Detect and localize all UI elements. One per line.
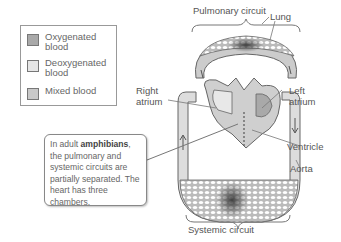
pulmonary-circuit-label: Pulmonary circuit [193,6,266,17]
callout-suffix: , the pulmonary and systemic circuits ar… [50,139,140,207]
mixed-swatch [27,88,39,100]
lung-label: Lung [270,12,291,23]
callout-prefix: In adult [50,139,81,149]
systemic-circuit-label: Systemic circuit [188,225,254,236]
aorta-label: Aorta [290,164,313,175]
left-atrium-label: Left atrium [289,86,315,107]
legend-item-deoxygenated: Deoxygenated blood [27,58,106,78]
callout-box: In adult amphibians, the pulmonary and s… [44,134,147,206]
legend-item-oxygenated: Oxygenated blood [27,32,96,52]
legend-label: Oxygenated blood [45,32,96,52]
legend-label: Deoxygenated blood [45,58,106,78]
right-atrium-label: Right atrium [136,86,162,107]
legend-item-mixed: Mixed blood [27,86,96,100]
ventricle-label: Ventricle [287,142,323,153]
deoxygenated-swatch [27,60,39,72]
oxygenated-swatch [27,34,39,46]
legend-label: Mixed blood [45,86,96,96]
callout-bold: amphibians [81,139,129,149]
legend: Oxygenated blood Deoxygenated blood Mixe… [20,25,117,106]
